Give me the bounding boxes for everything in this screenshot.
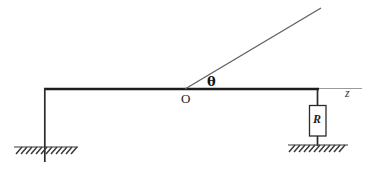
circuit-diagram — [0, 0, 378, 171]
resistor-label: R — [313, 113, 321, 125]
figure-canvas: θ O z R — [0, 0, 378, 171]
z-axis-label: z — [345, 87, 350, 99]
ground-symbol-right — [288, 145, 348, 152]
origin-label: O — [181, 92, 190, 105]
rotating-rod — [185, 8, 321, 89]
angle-theta-label: θ — [207, 75, 216, 88]
ground-symbol-left — [14, 147, 78, 154]
